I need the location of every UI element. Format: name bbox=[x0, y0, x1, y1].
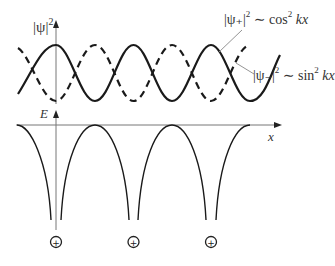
ion-row: + + + bbox=[51, 237, 217, 248]
svg-text:+: + bbox=[130, 238, 138, 248]
x-axis-label: x bbox=[267, 129, 274, 144]
cos-leader-line bbox=[219, 30, 242, 52]
cos-squared-curve bbox=[18, 45, 280, 101]
x-axis-arrow-icon bbox=[274, 122, 282, 128]
diagram-canvas: |ψ|2 |ψ₊|2 ∼ cos2 kx |ψ₋|2 ∼ sin2 kx E x… bbox=[0, 0, 335, 266]
positive-ion-icon: + bbox=[206, 237, 217, 248]
svg-text:+: + bbox=[52, 238, 60, 248]
top-panel: |ψ|2 |ψ₊|2 ∼ cos2 kx |ψ₋|2 ∼ sin2 kx bbox=[18, 9, 335, 104]
cos-squared-label: |ψ₊|2 ∼ cos2 kx bbox=[224, 9, 309, 27]
psi-axis-arrow-icon bbox=[53, 20, 59, 28]
energy-axis-arrow-icon bbox=[53, 110, 59, 118]
energy-axis-label: E bbox=[39, 106, 48, 121]
bottom-panel: E x bbox=[16, 106, 282, 230]
psi-axis-label: |ψ|2 bbox=[33, 16, 53, 35]
svg-text:+: + bbox=[207, 238, 215, 248]
sin-leader-line bbox=[236, 63, 254, 74]
sin-squared-label: |ψ₋|2 ∼ sin2 kx bbox=[253, 65, 335, 83]
positive-ion-icon: + bbox=[51, 237, 62, 248]
sin-squared-curve bbox=[18, 45, 250, 101]
positive-ion-icon: + bbox=[128, 237, 139, 248]
potential-curve bbox=[17, 125, 250, 220]
